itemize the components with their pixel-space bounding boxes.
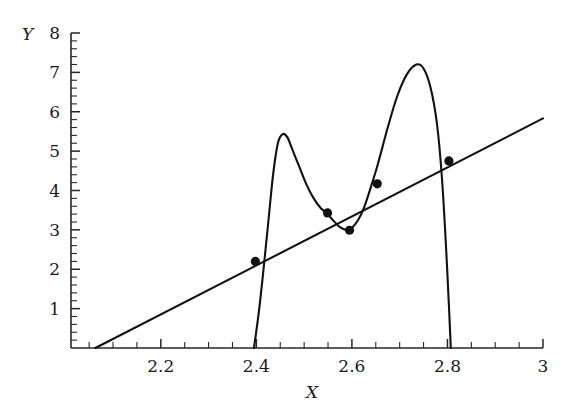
y-tick-label: 4: [38, 181, 60, 201]
axes-group: [71, 33, 543, 348]
caption-strip: [0, 404, 579, 416]
x-tick-label: 3: [538, 356, 549, 376]
y-tick-label: 1: [38, 299, 60, 319]
x-tick-label: 2.8: [434, 356, 461, 376]
y-tick-label: 7: [38, 62, 60, 82]
x-axis-title: X: [306, 382, 318, 402]
data-point-marker-5: [444, 156, 453, 165]
y-tick-label: 6: [38, 102, 60, 122]
y-tick-label: 2: [38, 259, 60, 279]
chart-figure: Y X 12345678 2.22.42.62.83: [0, 0, 579, 416]
data-point-marker-1: [251, 257, 260, 266]
plot-area: [0, 0, 579, 416]
x-ticks-group: [89, 339, 543, 348]
y-ticks-group: [71, 33, 80, 340]
series-line-straight-line: [95, 118, 543, 348]
x-tick-label: 2.4: [243, 356, 270, 376]
data-point-marker-4: [373, 179, 382, 188]
y-axis-title: Y: [22, 24, 33, 44]
series-line-oscillating-curve: [254, 64, 451, 348]
data-series-group: [95, 64, 543, 348]
data-point-marker-2: [323, 208, 332, 217]
x-tick-label: 2.6: [338, 356, 365, 376]
y-tick-label: 8: [38, 23, 60, 43]
y-tick-label: 3: [38, 220, 60, 240]
x-tick-label: 2.2: [147, 356, 174, 376]
y-tick-label: 5: [38, 141, 60, 161]
data-markers-group: [251, 156, 454, 266]
data-point-marker-3: [345, 226, 354, 235]
